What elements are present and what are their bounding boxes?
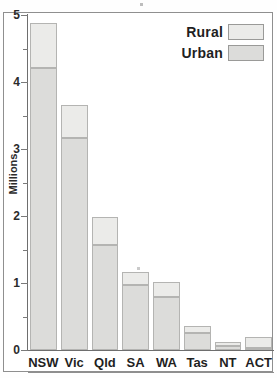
bar-segment-rural[interactable] xyxy=(215,342,242,346)
y-tick-major xyxy=(21,350,28,351)
bar-column[interactable] xyxy=(245,15,272,350)
legend-label-urban: Urban xyxy=(182,45,223,61)
x-tick-label: Vic xyxy=(59,354,90,372)
x-tick-label: SA xyxy=(120,354,151,372)
image-artifact-speck xyxy=(140,3,143,6)
x-axis-tick-labels: NSWVicQldSAWATasNTACT xyxy=(28,352,274,374)
bar-column[interactable] xyxy=(61,15,88,350)
y-tick-major xyxy=(21,82,28,83)
bar-segment-rural[interactable] xyxy=(122,272,149,285)
bar-segment-rural[interactable] xyxy=(61,105,88,139)
bar-series-group xyxy=(28,15,274,350)
bar-segment-urban[interactable] xyxy=(30,68,57,350)
y-tick-label: 5 xyxy=(0,9,20,21)
bar-segment-urban[interactable] xyxy=(122,285,149,350)
y-tick-label: 4 xyxy=(0,76,20,88)
bar-column[interactable] xyxy=(30,15,57,350)
legend-label-rural: Rural xyxy=(186,24,223,40)
bar-segment-urban[interactable] xyxy=(245,348,272,350)
bar-segment-rural[interactable] xyxy=(153,282,180,297)
x-tick-label: NSW xyxy=(28,354,59,372)
urban-swatch-icon xyxy=(228,45,264,61)
bar-segment-urban[interactable] xyxy=(184,333,211,350)
bar-segment-rural[interactable] xyxy=(184,326,211,333)
y-axis-title: Millions xyxy=(7,134,19,214)
y-tick-major xyxy=(21,216,28,217)
bar-segment-rural[interactable] xyxy=(92,217,119,245)
x-tick-label: ACT xyxy=(243,354,274,372)
bar-column[interactable] xyxy=(215,15,242,350)
x-tick-label: NT xyxy=(213,354,244,372)
bar-column[interactable] xyxy=(122,15,149,350)
x-tick-label: WA xyxy=(151,354,182,372)
legend-item-rural: Rural xyxy=(160,22,264,41)
x-tick-label: Qld xyxy=(90,354,121,372)
bar-column[interactable] xyxy=(153,15,180,350)
x-label-separator-rule xyxy=(28,372,274,373)
bar-segment-urban[interactable] xyxy=(153,297,180,350)
bar-segment-rural[interactable] xyxy=(245,337,272,348)
y-tick-major xyxy=(21,149,28,150)
x-tick-label: Tas xyxy=(182,354,213,372)
bar-column[interactable] xyxy=(184,15,211,350)
y-tick-label: 1 xyxy=(0,277,20,289)
x-axis-line xyxy=(27,350,274,351)
bar-segment-urban[interactable] xyxy=(215,346,242,350)
bar-segment-rural[interactable] xyxy=(30,23,57,68)
bar-segment-urban[interactable] xyxy=(61,138,88,350)
y-tick-label: 0 xyxy=(0,344,20,356)
bar-segment-urban[interactable] xyxy=(92,245,119,350)
legend-item-urban: Urban xyxy=(160,43,264,62)
chart-legend: Rural Urban xyxy=(160,22,264,64)
rural-swatch-icon xyxy=(228,24,264,40)
chart-figure: 012345 Millions NSWVicQldSAWATasNTACT Ru… xyxy=(0,0,277,378)
bar-column[interactable] xyxy=(92,15,119,350)
y-tick-major xyxy=(21,15,28,16)
y-tick-major xyxy=(21,283,28,284)
